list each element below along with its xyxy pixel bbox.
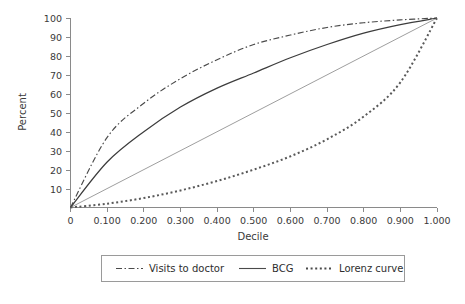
y-tick-label: 100 — [44, 13, 62, 24]
data-curves-group — [71, 18, 438, 208]
line-chart: 100 90 80 70 60 50 40 30 20 10 Percent — [0, 0, 465, 304]
x-axis-tick-labels: 0 0.100 0.200 0.300 0.400 0.500 0.600 0.… — [67, 215, 450, 226]
x-tick-label: 0.300 — [167, 215, 194, 226]
y-tick-label: 50 — [50, 108, 62, 119]
x-tick-label: 0.800 — [350, 215, 377, 226]
y-axis-ticks — [66, 19, 71, 190]
y-tick-label: 20 — [50, 165, 62, 176]
legend-label-lorenz-curve: Lorenz curve — [339, 263, 403, 274]
y-tick-label: 70 — [50, 70, 62, 81]
x-tick-label: 0 — [67, 215, 73, 226]
legend-label-bcg: BCG — [272, 263, 293, 274]
x-tick-label: 0.900 — [387, 215, 414, 226]
x-tick-label: 1.000 — [423, 215, 450, 226]
x-tick-label: 0.400 — [203, 215, 230, 226]
figure-container: 100 90 80 70 60 50 40 30 20 10 Percent — [0, 0, 465, 304]
x-axis-title: Decile — [237, 231, 268, 242]
x-tick-label: 0.200 — [130, 215, 157, 226]
x-tick-label: 0.600 — [277, 215, 304, 226]
legend-entries: Visits to doctor BCG Lorenz curve — [116, 263, 403, 274]
x-tick-label: 0.100 — [93, 215, 120, 226]
y-tick-label: 80 — [50, 51, 62, 62]
x-tick-label: 0.700 — [313, 215, 340, 226]
y-tick-label: 60 — [50, 89, 62, 100]
y-tick-label: 10 — [50, 184, 62, 195]
y-tick-label: 30 — [50, 146, 62, 157]
y-tick-label: 40 — [50, 127, 62, 138]
x-axis-ticks — [71, 208, 438, 213]
y-tick-label: 90 — [50, 32, 62, 43]
x-tick-label: 0.500 — [240, 215, 267, 226]
y-axis-tick-labels: 100 90 80 70 60 50 40 30 20 10 — [44, 13, 62, 195]
legend-label-visits-to-doctor: Visits to doctor — [149, 263, 225, 274]
y-axis-title: Percent — [17, 93, 28, 131]
curve-equality-line — [71, 18, 438, 208]
